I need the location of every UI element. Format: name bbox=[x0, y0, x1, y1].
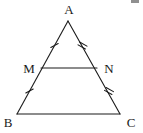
vertex-label-M: M bbox=[23, 62, 35, 75]
top-right-artifact bbox=[131, 0, 139, 3]
geometry-figure: A B C M N bbox=[0, 0, 143, 133]
vertex-label-N: N bbox=[104, 62, 113, 75]
tick-AM-icon bbox=[51, 43, 58, 47]
vertex-label-B: B bbox=[4, 116, 13, 129]
tick-AN-icon bbox=[78, 42, 87, 49]
triangle-diagram-canvas bbox=[0, 0, 143, 133]
vertex-label-C: C bbox=[127, 116, 136, 129]
tick-MB-icon bbox=[26, 89, 33, 93]
vertex-label-A: A bbox=[64, 3, 73, 16]
